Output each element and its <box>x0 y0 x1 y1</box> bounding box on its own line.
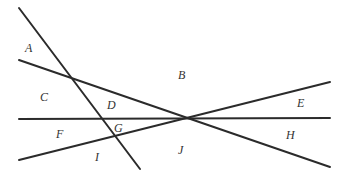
region-label-h: H <box>285 128 296 142</box>
line-3 <box>19 118 330 119</box>
region-label-f: F <box>55 127 64 141</box>
line-2 <box>19 60 330 167</box>
region-label-a: A <box>24 41 33 55</box>
region-label-c: C <box>40 90 49 104</box>
region-label-i: I <box>94 150 100 164</box>
region-label-b: B <box>178 68 186 82</box>
region-label-g: G <box>114 121 123 135</box>
region-label-e: E <box>296 96 305 110</box>
line-4 <box>19 82 330 160</box>
region-label-j: J <box>178 143 184 157</box>
line-region-diagram: A B C D E F G H I J <box>0 0 345 181</box>
region-label-d: D <box>106 98 116 112</box>
